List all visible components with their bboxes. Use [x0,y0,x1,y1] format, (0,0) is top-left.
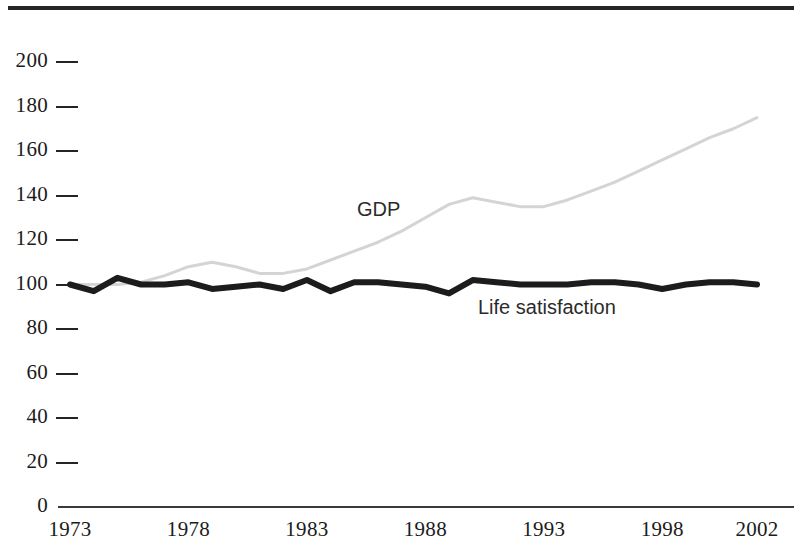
chart-plot-area [0,0,802,547]
life-satisfaction-line-series [70,278,757,294]
gdp-line-series [70,118,757,285]
chart-figure: 200180160140120100806040200 197319781983… [0,0,802,547]
gdp-series-label: GDP [357,198,400,221]
life-satisfaction-series-label: Life satisfaction [478,296,616,319]
